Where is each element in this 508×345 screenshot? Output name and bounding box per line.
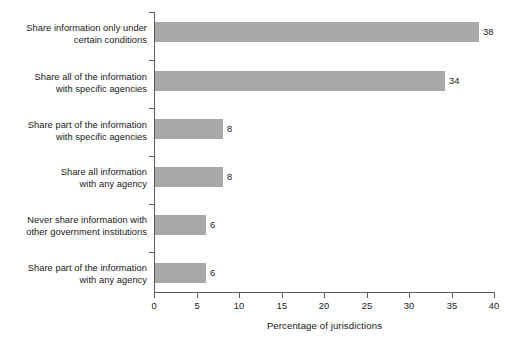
bar [155, 263, 206, 283]
bar [155, 71, 445, 91]
bar-value-label: 8 [227, 124, 232, 135]
x-axis-tick-label: 15 [277, 301, 287, 312]
category-label: Share all of the information with specif… [8, 72, 154, 95]
bar-value-label: 8 [227, 172, 232, 183]
x-axis-tick [367, 293, 368, 298]
x-axis-tick [409, 293, 410, 298]
x-axis-title: Percentage of jurisdictions [154, 320, 495, 331]
category-label: Share information only under certain con… [8, 23, 154, 46]
bar-value-label: 34 [449, 76, 459, 87]
category-label: Share all information with any agency [8, 167, 154, 190]
y-axis-tick [149, 204, 154, 205]
y-axis-tick [149, 156, 154, 157]
y-axis-tick [149, 60, 154, 61]
bar-chart: Share information only under certain con… [0, 0, 508, 345]
bar-value-label: 6 [210, 220, 215, 231]
bar [155, 22, 479, 42]
bar-value-label: 6 [210, 268, 215, 279]
y-axis-tick [149, 252, 154, 253]
x-axis-tick [239, 293, 240, 298]
category-label: Never share information with other gover… [8, 215, 154, 238]
y-axis-tick [149, 108, 154, 109]
x-axis-tick [494, 293, 495, 298]
bar [155, 119, 223, 139]
category-label: Share part of the information with any a… [8, 263, 154, 286]
x-axis-tick [197, 293, 198, 298]
x-axis-tick-label: 10 [234, 301, 244, 312]
x-axis-tick-label: 20 [319, 301, 329, 312]
y-axis-tick [149, 12, 154, 13]
x-axis-tick-label: 40 [489, 301, 499, 312]
bar-value-label: 38 [483, 27, 493, 38]
x-axis-tick-label: 0 [151, 301, 156, 312]
x-axis-tick-label: 35 [447, 301, 457, 312]
x-axis-tick [282, 293, 283, 298]
bar [155, 167, 223, 187]
y-axis-line [154, 12, 155, 293]
x-axis-tick [324, 293, 325, 298]
x-axis-tick-label: 25 [362, 301, 372, 312]
x-axis-tick [452, 293, 453, 298]
category-label: Share part of the information with speci… [8, 120, 154, 143]
bar [155, 215, 206, 235]
x-axis-tick-label: 30 [404, 301, 414, 312]
x-axis-tick-label: 5 [194, 301, 199, 312]
x-axis-tick [154, 293, 155, 298]
